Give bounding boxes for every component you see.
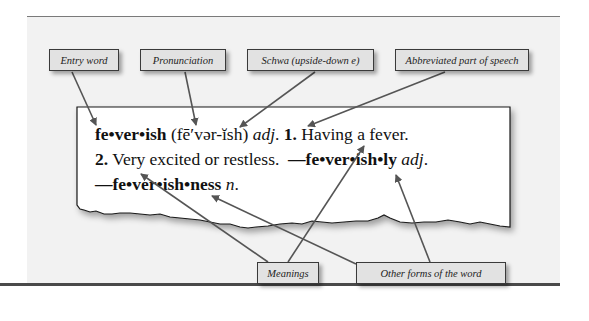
pronunciation: (fē′vər-ĭsh) (171, 124, 248, 144)
headword: fe•ver•ish (95, 124, 167, 144)
entry-line-1: fe•ver•ish (fē′vər-ĭsh) adj. 1. Having a… (95, 122, 505, 147)
sense-2-number: 2. (95, 149, 108, 169)
dictionary-entry: fe•ver•ish (fē′vər-ĭsh) adj. 1. Having a… (95, 122, 505, 197)
form-2-word: fe•ver•ish•ness (113, 174, 222, 194)
label-meanings: Meanings (257, 262, 319, 284)
sense-1-text: Having a fever. (301, 124, 408, 144)
form-2-pos: n (226, 174, 235, 194)
label-other-forms: Other forms of the word (356, 262, 506, 284)
form-1-pos: adj (401, 149, 423, 169)
label-pronunciation: Pronunciation (140, 49, 226, 71)
label-schwa: Schwa (upside-down e) (247, 49, 374, 71)
entry-line-2: 2. Very excited or restless. —fe•ver•ish… (95, 147, 505, 172)
form-1-dash: — (288, 149, 306, 169)
sense-1-number: 1. (284, 124, 297, 144)
entry-line-3: —fe•ver•ish•ness n. (95, 172, 505, 197)
label-entry-word: Entry word (49, 49, 119, 71)
label-part-of-speech: Abbreviated part of speech (395, 49, 529, 71)
form-2-dash: — (95, 174, 113, 194)
form-1-word: fe•ver•ish•ly (306, 149, 397, 169)
part-of-speech: adj (253, 124, 275, 144)
sense-2-text: Very excited or restless. (112, 149, 279, 169)
